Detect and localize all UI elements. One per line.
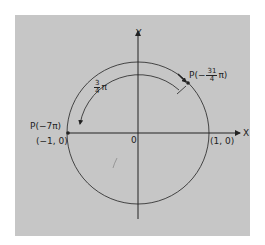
point-p-left-label: P(−7π) [30, 122, 61, 131]
right-intercept-label: (1, 0) [210, 137, 234, 146]
outer-direction-arrow [178, 74, 186, 82]
y-axis-label: Y [136, 29, 142, 38]
stray-mark [113, 158, 117, 168]
point-p-left [66, 131, 70, 135]
arc-start-tick [177, 86, 186, 94]
x-axis-label: X [243, 129, 249, 138]
origin-label: 0 [131, 136, 137, 145]
point-p-upper-label: P(−314π) [189, 68, 227, 83]
arc-angle-label: 34π [93, 80, 107, 95]
unit-circle-figure: Y X 0 (1, 0) (−1, 0) P(−7π) P(−314π) 34π [0, 0, 265, 245]
left-intercept-label: (−1, 0) [36, 137, 68, 146]
